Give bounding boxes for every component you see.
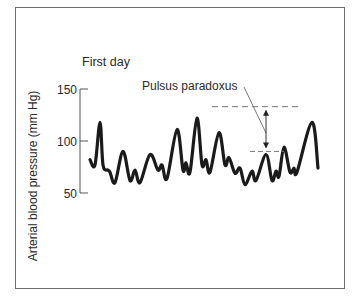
annotation-leader-line [244,87,266,133]
chart-title: First day [82,55,131,69]
annotation-label: Pulsus paradoxus [142,79,237,93]
y-tick-label: 50 [64,187,78,201]
arrow-head-up-icon [263,110,269,116]
arrow-head-down-icon [263,142,269,148]
chart: First day Arterial blood pressure (mm Hg… [0,0,359,300]
y-axis-label: Arterial blood pressure (mm Hg) [26,91,40,262]
y-ticks: 50100150 [57,83,88,201]
y-tick-label: 150 [57,83,77,97]
y-tick-label: 100 [57,135,77,149]
